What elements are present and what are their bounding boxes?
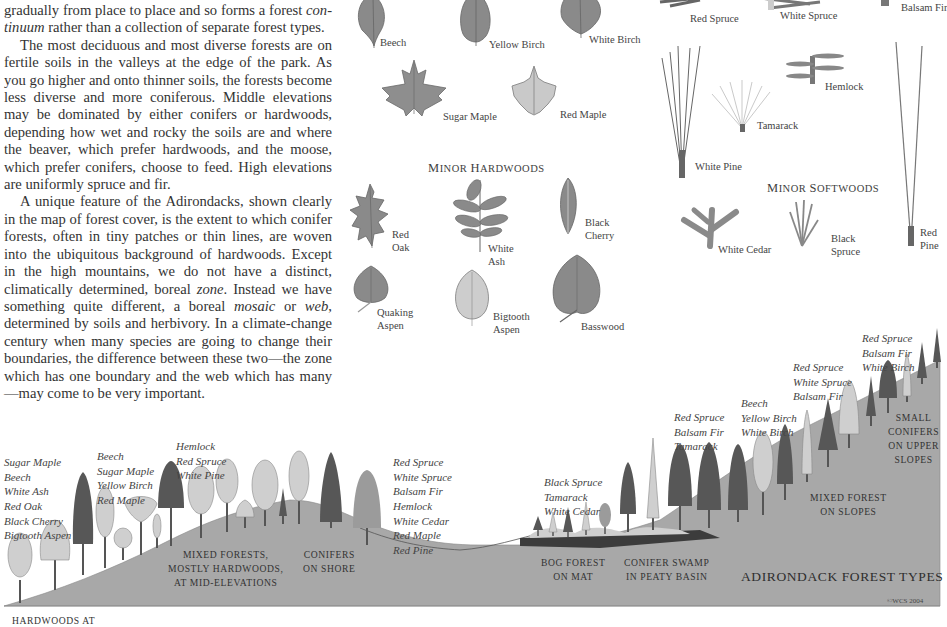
zone-conifers-on-shore: Coniferson Shore	[303, 548, 356, 576]
black-cherry-leaf-icon	[561, 178, 577, 234]
label-red-oak: Red Oak	[392, 228, 410, 254]
label-bigtooth-aspen: Bigtooth Aspen	[493, 310, 530, 336]
white-pine-needles-icon	[662, 46, 700, 178]
red-spruce-twig-icon	[660, 0, 700, 6]
label-red-spruce: Red Spruce	[690, 12, 739, 25]
label-hemlock: Hemlock	[825, 80, 864, 93]
species-list-bog: Black SpruceTamarackWhite Cedar	[544, 446, 602, 534]
zone-hardwoods-at: Hardwoods at	[12, 614, 95, 627]
label-black-cherry: Black Cherry	[585, 216, 614, 242]
label-basswood: Basswood	[581, 320, 624, 333]
label-white-pine: White Pine	[695, 160, 742, 173]
species-list-slope-conifers: Red SpruceWhite SpruceBalsam Fir	[793, 331, 852, 419]
heading-minor-softwoods: Minor Softwoods	[767, 181, 879, 196]
bigtooth-aspen-leaf-icon	[456, 270, 489, 326]
forest-illustration	[0, 0, 947, 627]
yellow-birch-leaf-icon	[461, 0, 491, 46]
label-red-maple: Red Maple	[560, 108, 606, 121]
zone-mixed-forests: Mixed Forests,Mostly Hardwoods,at Mid-El…	[168, 548, 283, 590]
copyright-notice: ©WCS 2004	[887, 597, 923, 605]
white-ash-leaf-icon	[452, 177, 508, 252]
balsam-fir-twig-icon	[881, 0, 889, 6]
zone-small-conifers: SmallConiferson UpperSlopes	[888, 411, 939, 467]
diagram-title: ADIRONDACK FOREST TYPES	[741, 569, 943, 585]
label-red-pine: Red Pine	[920, 226, 939, 252]
label-yellow-birch: Yellow Birch	[489, 38, 545, 51]
sugar-maple-leaf-icon	[382, 60, 446, 116]
label-white-spruce: White Spruce	[780, 9, 837, 22]
label-tamarack: Tamarack	[757, 119, 798, 132]
zone-bog-forest: Bog Foreston Mat	[541, 556, 605, 584]
black-spruce-twig-icon	[790, 200, 818, 246]
species-list-upper: Red SpruceBalsam FirWhite Birch	[862, 302, 914, 390]
label-white-birch: White Birch	[589, 33, 641, 46]
species-list-shore: Red SpruceWhite SpruceBalsam FirHemlockW…	[393, 426, 452, 572]
zone-mixed-forest-slopes: Mixed Foreston Slopes	[810, 491, 887, 519]
species-list-valley: Sugar MapleBeechWhite AshRed OakBlack Ch…	[4, 426, 71, 557]
heading-minor-hardwoods: Minor Hardwoods	[428, 161, 545, 176]
red-pine-needles-icon	[896, 42, 922, 246]
species-list-mid-conifers: HemlockRed SpruceWhite Pine	[176, 410, 226, 498]
zone-conifer-swamp: Conifer Swampin Peaty Basin	[624, 556, 709, 584]
label-white-ash: White Ash	[488, 242, 514, 268]
label-white-cedar: White Cedar	[718, 243, 771, 256]
species-list-mid-hardwoods: BeechSugar MapleYellow BirchRed Maple	[97, 420, 154, 522]
label-quaking-aspen: Quaking Aspen	[377, 306, 413, 332]
label-beech: Beech	[380, 36, 406, 49]
red-maple-leaf-icon	[512, 66, 556, 115]
label-black-spruce: Black Spruce	[831, 232, 860, 258]
basswood-leaf-icon	[553, 255, 600, 322]
red-oak-leaf-icon	[350, 184, 388, 248]
label-balsam-fir: Balsam Fir	[901, 1, 947, 14]
label-sugar-maple: Sugar Maple	[443, 110, 497, 123]
species-list-swamp: Red SpruceBalsam FirTamarack	[674, 381, 724, 469]
white-cedar-twig-icon	[684, 210, 736, 246]
species-list-slope-hardwoods: BeechYellow BirchWhite Birch	[741, 367, 797, 455]
